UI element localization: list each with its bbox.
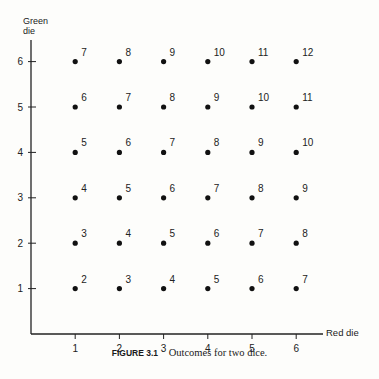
data-point xyxy=(73,241,78,246)
data-point-label: 3 xyxy=(125,274,131,285)
data-point xyxy=(249,150,254,155)
data-point-label: 10 xyxy=(214,47,226,58)
data-point-label: 4 xyxy=(81,183,87,194)
figure-title: Outcomes for two dice. xyxy=(169,347,268,358)
data-point-label: 7 xyxy=(258,228,264,239)
data-point-label: 6 xyxy=(81,92,87,103)
data-point xyxy=(249,286,254,291)
scatter-plot: 1234561234562345673456784567895678910678… xyxy=(0,0,379,379)
data-point-label: 7 xyxy=(125,92,131,103)
data-point xyxy=(294,150,299,155)
data-point-label: 6 xyxy=(125,137,131,148)
data-point-label: 2 xyxy=(81,274,87,285)
y-tick-label: 5 xyxy=(17,102,23,113)
data-point-label: 9 xyxy=(170,47,176,58)
data-point xyxy=(161,104,166,109)
figure-caption: FIGURE 3.1 Outcomes for two dice. xyxy=(0,347,379,358)
data-point-label: 8 xyxy=(170,92,176,103)
data-point xyxy=(205,104,210,109)
data-point xyxy=(117,59,122,64)
data-point xyxy=(205,59,210,64)
data-point-label: 6 xyxy=(214,228,220,239)
data-point xyxy=(117,104,122,109)
data-point xyxy=(73,286,78,291)
data-point xyxy=(294,195,299,200)
y-tick-label: 1 xyxy=(17,283,23,294)
data-point xyxy=(294,104,299,109)
figure-number: FIGURE 3.1 xyxy=(112,348,158,358)
data-point-label: 6 xyxy=(258,274,264,285)
data-point-label: 4 xyxy=(170,274,176,285)
data-point xyxy=(249,195,254,200)
data-point-label: 5 xyxy=(81,137,87,148)
data-point xyxy=(161,286,166,291)
data-point-label: 8 xyxy=(302,228,308,239)
y-tick-label: 2 xyxy=(17,238,23,249)
y-tick-label: 4 xyxy=(17,147,23,158)
data-point xyxy=(205,195,210,200)
data-point-label: 12 xyxy=(302,47,314,58)
data-point xyxy=(161,241,166,246)
data-point xyxy=(161,59,166,64)
data-point-label: 6 xyxy=(170,183,176,194)
data-point-label: 7 xyxy=(81,47,87,58)
data-point-label: 8 xyxy=(258,183,264,194)
data-point-label: 7 xyxy=(170,137,176,148)
data-point xyxy=(73,195,78,200)
data-point xyxy=(73,59,78,64)
y-tick-label: 6 xyxy=(17,56,23,67)
data-point-label: 5 xyxy=(214,274,220,285)
data-point xyxy=(249,59,254,64)
data-point-label: 9 xyxy=(258,137,264,148)
data-point-label: 3 xyxy=(81,228,87,239)
data-point xyxy=(294,59,299,64)
data-point xyxy=(73,104,78,109)
data-point-label: 11 xyxy=(302,92,313,103)
data-point xyxy=(73,150,78,155)
data-point xyxy=(117,286,122,291)
data-point-label: 10 xyxy=(302,137,314,148)
data-point xyxy=(205,286,210,291)
data-point-label: 5 xyxy=(170,228,176,239)
data-point xyxy=(205,241,210,246)
data-point-label: 9 xyxy=(302,183,308,194)
data-point-label: 8 xyxy=(214,137,220,148)
data-point xyxy=(161,150,166,155)
data-point-label: 11 xyxy=(258,47,269,58)
data-point xyxy=(117,150,122,155)
data-point-label: 9 xyxy=(214,92,220,103)
data-point xyxy=(205,150,210,155)
data-point-label: 7 xyxy=(302,274,308,285)
data-point xyxy=(161,195,166,200)
data-point-label: 7 xyxy=(214,183,220,194)
y-tick-label: 3 xyxy=(17,192,23,203)
data-point-label: 5 xyxy=(125,183,131,194)
data-point xyxy=(117,241,122,246)
data-point xyxy=(249,241,254,246)
data-point xyxy=(117,195,122,200)
data-point-label: 8 xyxy=(125,47,131,58)
data-point-label: 10 xyxy=(258,92,270,103)
data-point xyxy=(249,104,254,109)
data-point-label: 4 xyxy=(125,228,131,239)
data-point xyxy=(294,241,299,246)
data-point xyxy=(294,286,299,291)
